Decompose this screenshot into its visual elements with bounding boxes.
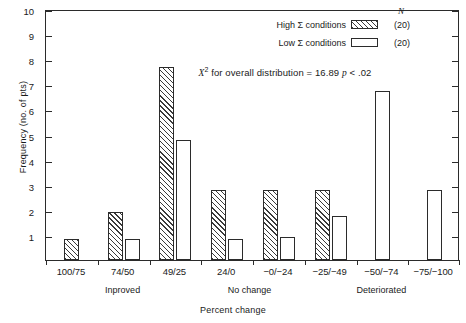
y-tick-label: 4 [8,156,34,167]
x-tick-mark [305,260,306,265]
x-tick-label: 24/0 [217,266,235,277]
x-tick-label: 100/75 [57,266,85,277]
bar-low-sigma [280,237,295,260]
y-tick-mark [46,111,52,112]
group-label: Inproved [105,285,140,295]
bar-high-sigma [64,239,79,260]
legend-n-value: (20) [384,20,410,30]
bar-high-sigma [263,190,278,260]
bar-low-sigma [228,239,243,260]
y-tick-mark [46,86,52,87]
y-tick-mark-right [452,61,458,62]
legend-label: Low Σ conditions [278,38,346,48]
y-tick-mark-right [452,86,458,87]
x-tick-label: −25/−49 [313,266,347,277]
y-tick-label: 1 [8,231,34,242]
x-tick-mark [98,260,99,265]
y-tick-label: 6 [8,106,34,117]
y-tick-mark [46,187,52,188]
x-tick-label: −0/−24 [263,266,292,277]
x-tick-label: 74/50 [111,266,134,277]
x-tick-mark [253,260,254,265]
y-tick-mark-right [452,162,458,163]
y-tick-mark-right [452,212,458,213]
legend-n-value: (20) [384,38,410,48]
legend-row: High Σ conditions(20) [216,18,410,31]
bar-high-sigma [315,190,330,260]
x-tick-mark [46,260,47,265]
y-tick-label: 9 [8,31,34,42]
y-tick-label: 3 [8,181,34,192]
y-tick-mark [46,212,52,213]
bar-high-sigma [108,212,123,260]
bar-low-sigma [375,91,390,260]
x-tick-mark [459,260,460,265]
y-tick-mark [46,162,52,163]
x-tick-mark [201,260,202,265]
legend-swatch-open [351,38,378,48]
legend-swatch-hatched [351,20,378,30]
y-tick-mark-right [452,36,458,37]
bar-high-sigma [159,67,174,260]
y-tick-label: 10 [8,6,34,17]
chi-square-annotation: X2 for overall distribution = 16.89 p < … [140,66,430,78]
bar-low-sigma [427,190,442,260]
y-tick-mark [46,237,52,238]
y-tick-mark [46,137,52,138]
annotation-tail: < .02 [347,67,372,78]
y-tick-label: 7 [8,81,34,92]
x-tick-mark [150,260,151,265]
legend-n-header: N [398,6,404,16]
x-tick-mark [357,260,358,265]
y-tick-mark-right [452,187,458,188]
y-tick-mark [46,36,52,37]
bar-low-sigma [125,239,140,260]
y-tick-mark-right [452,111,458,112]
y-tick-label: 5 [8,131,34,142]
y-tick-mark-right [452,137,458,138]
y-tick-label: 2 [8,206,34,217]
x-tick-label: −75/−100 [413,266,452,277]
y-tick-mark-right [452,11,458,12]
bar-high-sigma [211,190,226,260]
x-axis-title: Percent change [0,305,466,315]
legend-label: High Σ conditions [276,20,346,30]
chart-figure: Frequency (no. of pts) 12345678910 100/7… [0,0,466,323]
group-label: No change [228,285,272,295]
x-tick-mark [408,260,409,265]
legend-row: Low Σ conditions(20) [216,36,410,49]
y-tick-label: 8 [8,56,34,67]
x-tick-label: 49/25 [163,266,186,277]
annotation-body: for overall distribution = 16.89 [208,67,342,78]
y-tick-mark [46,11,52,12]
x-tick-label: −50/−74 [364,266,398,277]
y-tick-mark-right [452,237,458,238]
group-label: Deteriorated [357,285,407,295]
y-tick-mark [46,61,52,62]
bar-low-sigma [332,216,347,260]
bar-low-sigma [176,140,191,260]
